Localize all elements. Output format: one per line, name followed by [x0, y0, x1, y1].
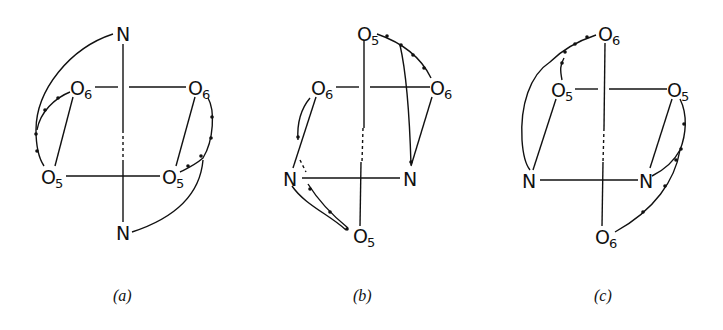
caption-a: (a)	[113, 287, 132, 305]
atom-o6-left-sub: 6	[84, 87, 92, 102]
atom-o6-right-sub: 6	[444, 87, 452, 102]
atom-n-right: N	[639, 170, 653, 192]
panel-a: N O 6 O 6 O 5 O 5 N (a)	[34, 23, 214, 305]
atom-o6-bottom: O	[595, 226, 610, 248]
atom-o6-top: O	[598, 23, 613, 45]
coordination-diagrams: N O 6 O 6 O 5 O 5 N (a) O	[0, 0, 723, 330]
atom-n-right: N	[403, 168, 417, 190]
atom-n-bottom: N	[116, 222, 130, 244]
atom-o5-top: O	[357, 23, 372, 45]
atom-o5-left: O	[41, 166, 56, 188]
atom-o5-right-sub: 5	[176, 176, 184, 191]
atom-o6-bottom-sub: 6	[609, 236, 617, 251]
atom-o6-left: O	[311, 77, 326, 99]
atom-o5-left-sub: 5	[55, 176, 63, 191]
atom-n-left: N	[283, 168, 297, 190]
panel-b: O 5 O 6 O 6 N N O 5 (b)	[283, 23, 452, 305]
atom-o5-bottom: O	[353, 225, 368, 247]
caption-b: (b)	[353, 287, 372, 305]
atom-o6-left-sub: 6	[325, 87, 333, 102]
atom-o5-right-sub: 5	[681, 89, 689, 104]
atom-o5-right: O	[162, 166, 177, 188]
atom-o6-left: O	[70, 77, 85, 99]
atom-n-top: N	[116, 23, 130, 45]
atom-o6-right: O	[430, 77, 445, 99]
atom-o5-bottom-sub: 5	[367, 235, 375, 250]
atom-o5-top-sub: 5	[371, 33, 379, 48]
atom-n-left: N	[522, 170, 536, 192]
atom-o5-left-sub: 5	[565, 89, 573, 104]
atom-o5-left: O	[551, 79, 566, 101]
atom-o5-right: O	[667, 79, 682, 101]
atom-o6-right: O	[188, 77, 203, 99]
atom-o6-right-sub: 6	[202, 87, 210, 102]
caption-c: (c)	[594, 287, 612, 305]
atom-o6-top-sub: 6	[612, 33, 620, 48]
panel-c: O 6 O 5 O 5 N N O 6 (c)	[522, 23, 690, 305]
